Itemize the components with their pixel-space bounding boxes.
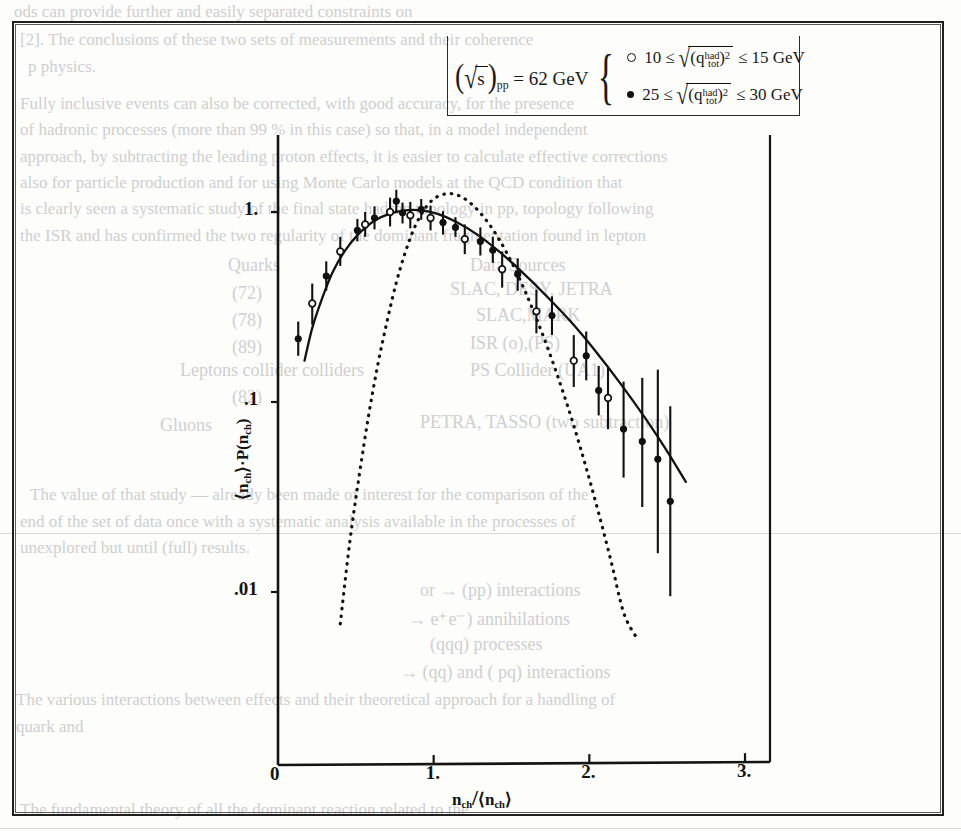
- filled-circle-marker: [323, 273, 329, 279]
- filled-circle-marker: [490, 247, 496, 253]
- data-point: [570, 335, 577, 387]
- y-title-close: ⟩: [233, 466, 252, 473]
- filled-circle-marker: [418, 206, 424, 212]
- data-point: [595, 366, 601, 416]
- x-tick-label: 0: [270, 763, 280, 785]
- filled-circle-marker: [595, 387, 601, 393]
- open-circle-marker: [499, 266, 506, 273]
- open-circle-marker: [570, 357, 577, 364]
- filled-circle-marker: [295, 336, 301, 342]
- y-title-arg-open: (: [233, 444, 252, 450]
- y-tick-label: .01: [234, 578, 258, 600]
- filled-circle-marker: [620, 426, 626, 432]
- filled-circle-marker: [393, 198, 399, 204]
- filled-circle-marker: [399, 210, 405, 216]
- open-circle-marker: [407, 212, 414, 219]
- y-axis-title: ⟨nch⟩·P(nch): [232, 419, 253, 500]
- y-title-mean: n: [233, 484, 252, 493]
- kno-multiplicity-plot: [0, 0, 961, 831]
- y-title-arg: n: [233, 435, 252, 444]
- data-point: [605, 367, 612, 429]
- data-point: [399, 203, 405, 224]
- x-title-num-sub: ch: [461, 799, 472, 810]
- plot-axes: [271, 135, 770, 765]
- filled-circle-marker: [440, 219, 446, 225]
- open-circle-marker: [462, 236, 469, 243]
- y-title-dot: ·: [233, 460, 252, 466]
- filled-circle-marker: [583, 353, 589, 359]
- open-circle-marker: [605, 395, 612, 402]
- open-circle-marker: [387, 209, 394, 216]
- data-point: [393, 190, 399, 213]
- x-tick-label: 3.: [737, 760, 751, 782]
- data-point: [418, 199, 424, 220]
- data-point: [515, 258, 521, 290]
- y-title-mean-sub: ch: [242, 473, 253, 484]
- open-circle-marker: [337, 248, 344, 255]
- y-title-open: ⟨: [233, 493, 252, 500]
- data-point: [387, 198, 394, 227]
- x-tick-label: 2.: [581, 761, 595, 783]
- filled-circle-marker: [477, 238, 483, 244]
- x-tick-label: 1.: [426, 762, 440, 784]
- filled-circle-marker: [515, 271, 521, 277]
- fit-curves: [305, 194, 686, 637]
- x-title-den-close: ⟩: [505, 790, 512, 809]
- y-tick-label: .1: [244, 388, 258, 410]
- filled-circle-marker: [655, 456, 661, 462]
- data-point: [549, 296, 555, 335]
- data-point: [477, 227, 483, 255]
- open-circle-marker: [309, 300, 316, 307]
- x-axis-title: nch/⟨nch⟩: [452, 786, 512, 811]
- data-point: [407, 202, 414, 228]
- filled-circle-marker: [667, 498, 673, 504]
- data-point: [583, 331, 589, 380]
- data-point: [371, 206, 377, 229]
- data-point: [490, 237, 496, 263]
- data-point: [362, 212, 369, 237]
- poisson-curve: [340, 194, 636, 637]
- data-point: [667, 406, 673, 596]
- x-title-den-sub: ch: [494, 799, 505, 810]
- filled-circle-marker: [371, 215, 377, 221]
- x-title-den: n: [485, 790, 494, 809]
- filled-circle-marker: [549, 312, 555, 318]
- y-title-arg-close: ): [233, 419, 252, 425]
- data-point: [323, 261, 329, 290]
- open-circle-marker: [362, 221, 369, 228]
- data-point: [295, 322, 301, 356]
- filled-circle-marker: [639, 438, 645, 444]
- open-circle-marker: [427, 215, 434, 222]
- figure-page: ods can provide further and easily separ…: [0, 0, 961, 831]
- data-point: [655, 370, 661, 554]
- y-tick-label: 1.: [244, 198, 258, 220]
- x-title-den-open: ⟨: [478, 790, 485, 809]
- y-title-p: P: [233, 450, 252, 460]
- open-circle-marker: [533, 308, 540, 315]
- data-point: [620, 382, 626, 478]
- data-point: [639, 378, 645, 507]
- filled-circle-marker: [354, 227, 360, 233]
- x-axis-line: [278, 762, 770, 765]
- data-point: [427, 206, 434, 231]
- filled-circle-marker: [452, 224, 458, 230]
- y-title-arg-sub: ch: [242, 424, 253, 435]
